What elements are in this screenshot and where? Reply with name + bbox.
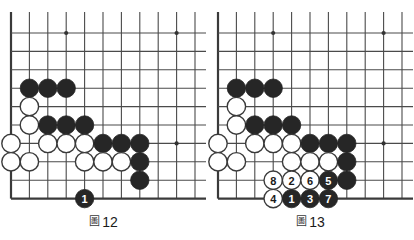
go-stone-black: [338, 153, 356, 171]
go-stone-black: [227, 79, 245, 97]
go-stone-black: [338, 171, 356, 189]
move-number-label: 4: [270, 193, 277, 205]
go-stone-white: [2, 153, 20, 171]
go-stone-black: [112, 134, 130, 152]
figure-number: 12: [102, 214, 118, 230]
figure-kanji-icon: 圖: [296, 214, 307, 230]
go-stone-black: [264, 116, 282, 134]
go-stone-white-6: 6: [301, 171, 319, 189]
go-stone-white: [301, 153, 319, 171]
go-stone-black: [131, 134, 149, 152]
figure-kanji-icon: 圖: [89, 214, 100, 230]
go-stone-white: [20, 153, 38, 171]
go-stone-white: [227, 153, 245, 171]
go-stone-white: [209, 134, 227, 152]
go-stone-white: [209, 153, 227, 171]
go-stone-black: [131, 171, 149, 189]
go-stone-black: [94, 134, 112, 152]
go-stone-black: [301, 134, 319, 152]
go-stone-black: [338, 134, 356, 152]
go-stone-black-1: 1: [75, 189, 93, 207]
go-stone-black: [75, 116, 93, 134]
go-stone-white: [20, 97, 38, 115]
go-stone-black: [282, 116, 300, 134]
figure-13-container: 82654137 圖13: [207, 0, 414, 240]
go-stone-white-2: 2: [282, 171, 300, 189]
go-stone-black: [57, 79, 75, 97]
go-board-13: 82654137: [207, 0, 414, 212]
go-stone-white: [57, 134, 75, 152]
go-stone-black: [131, 153, 149, 171]
go-stone-black: [246, 79, 264, 97]
go-stone-white: [2, 134, 20, 152]
go-stone-white: [282, 134, 300, 152]
go-stone-black: [39, 116, 57, 134]
go-stone-white: [227, 97, 245, 115]
star-point: [271, 31, 275, 35]
go-stone-white: [39, 134, 57, 152]
move-number-label: 7: [325, 193, 331, 205]
go-board-12: 1: [0, 0, 207, 212]
move-number-label: 8: [270, 175, 276, 187]
go-stone-white: [246, 134, 264, 152]
go-stone-black: [57, 116, 75, 134]
go-diagram-pair: 1 圖12 82654137 圖13: [0, 0, 414, 240]
move-number-label: 5: [325, 175, 331, 187]
star-point: [175, 141, 179, 145]
go-stone-black: [246, 116, 264, 134]
figure-12-container: 1 圖12: [0, 0, 207, 240]
go-stone-white: [75, 134, 93, 152]
go-stone-white: [264, 134, 282, 152]
go-stone-white: [75, 153, 93, 171]
go-stone-white-4: 4: [264, 189, 282, 207]
move-number-label: 1: [82, 193, 88, 205]
move-number-label: 2: [289, 175, 295, 187]
star-point: [382, 31, 386, 35]
go-board-13-canvas: 82654137: [207, 0, 414, 212]
figure-number: 13: [309, 214, 325, 230]
go-stone-black-7: 7: [319, 189, 337, 207]
go-stone-black: [264, 79, 282, 97]
go-stone-black-5: 5: [319, 171, 337, 189]
move-number-label: 3: [307, 193, 313, 205]
go-stone-black-1: 1: [282, 189, 300, 207]
go-board-12-canvas: 1: [0, 0, 207, 212]
go-stone-black-3: 3: [301, 189, 319, 207]
go-stone-white: [319, 153, 337, 171]
go-stone-white: [112, 153, 130, 171]
go-stone-white-8: 8: [264, 171, 282, 189]
go-stone-white: [94, 153, 112, 171]
go-stone-white: [227, 116, 245, 134]
figure-13-caption: 圖13: [207, 214, 414, 231]
go-stone-black: [319, 134, 337, 152]
go-stone-white: [20, 116, 38, 134]
star-point: [382, 141, 386, 145]
move-number-label: 1: [289, 193, 295, 205]
figure-12-caption: 圖12: [0, 214, 207, 231]
go-stone-black: [39, 79, 57, 97]
star-point: [175, 31, 179, 35]
go-stone-white: [282, 153, 300, 171]
star-point: [64, 31, 68, 35]
move-number-label: 6: [307, 175, 313, 187]
go-stone-black: [20, 79, 38, 97]
